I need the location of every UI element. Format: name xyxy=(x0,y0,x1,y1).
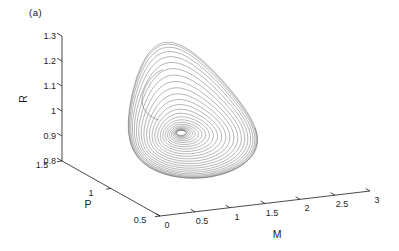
r-axis-tick xyxy=(57,108,62,111)
m-axis-title: M xyxy=(273,228,282,240)
r-axis-tick xyxy=(57,133,62,136)
m-axis-tick-label: 1.5 xyxy=(266,208,279,218)
p-axis-tick xyxy=(155,216,160,217)
m-axis-tick-label: 0 xyxy=(164,220,169,230)
r-axis-tick xyxy=(57,83,62,86)
r-axis-tick xyxy=(57,33,62,36)
phase-portrait-figure: (a) 00.511.522.530.511.50.80.911.11.21.3… xyxy=(0,0,399,251)
p-axis-tick-label: 0.5 xyxy=(134,215,147,225)
m-axis-tick xyxy=(366,189,370,192)
m-axis-tick xyxy=(226,205,230,208)
r-axis-tick-label: 1 xyxy=(51,106,56,116)
m-axis-tick xyxy=(156,214,160,217)
m-axis-tick-label: 3 xyxy=(374,195,379,205)
r-axis-tick-label: 1.1 xyxy=(43,81,56,91)
p-axis-title: P xyxy=(84,198,91,210)
r-axis-tick-label: 0.9 xyxy=(43,131,56,141)
m-axis-tick xyxy=(261,201,265,204)
m-axis-tick xyxy=(296,197,300,200)
m-axis-tick-label: 2 xyxy=(304,203,309,213)
p-axis-tick xyxy=(106,189,111,190)
attractor-trajectory xyxy=(128,42,257,178)
3d-attractor-plot: 00.511.522.530.511.50.80.911.11.21.3MPR xyxy=(0,0,399,251)
r-axis-tick-label: 0.8 xyxy=(43,156,56,166)
r-axis-tick-label: 1.2 xyxy=(43,56,56,66)
r-axis-tick xyxy=(57,58,62,61)
r-axis-title: R xyxy=(17,95,29,103)
m-axis-tick-label: 0.5 xyxy=(196,216,209,226)
r-axis-tick-label: 1.3 xyxy=(43,31,56,41)
p-axis-tick xyxy=(57,161,62,162)
m-axis-tick xyxy=(331,193,335,196)
p-axis-tick-label: 1 xyxy=(88,188,93,198)
m-axis-tick-label: 1 xyxy=(234,212,239,222)
m-axis-tick-label: 2.5 xyxy=(336,199,349,209)
r-axis-tick xyxy=(57,158,62,161)
m-axis-tick xyxy=(191,209,195,212)
